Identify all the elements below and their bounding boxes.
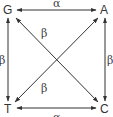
- node-g: G: [3, 3, 12, 17]
- substitution-diagram: G A T C α α β β β β: [0, 0, 113, 117]
- label-beta-left: β: [0, 54, 5, 67]
- node-a: A: [100, 3, 108, 17]
- node-t: T: [4, 102, 12, 116]
- label-beta-right: β: [107, 54, 113, 67]
- label-alpha-top: α: [53, 0, 61, 10]
- label-alpha-bottom: α: [53, 111, 61, 117]
- label-beta-diag-lower: β: [41, 82, 47, 95]
- node-c: C: [100, 102, 109, 116]
- label-beta-diag-upper: β: [41, 27, 47, 40]
